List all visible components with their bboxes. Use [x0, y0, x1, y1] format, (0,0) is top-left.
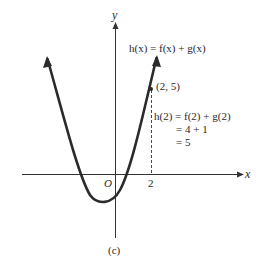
computation-line-2: = 4 + 1: [176, 124, 208, 135]
y-axis-label: y: [112, 9, 117, 21]
point-label: (2, 5): [156, 81, 180, 92]
graph-canvas: [0, 0, 259, 272]
parabola-curve: [48, 58, 157, 202]
figure-caption: (c): [108, 245, 120, 256]
x-axis-label: x: [245, 168, 250, 180]
curve-left-arrowhead: [43, 56, 52, 68]
point-2-5: [149, 87, 153, 91]
curve-right-arrowhead: [152, 55, 161, 67]
function-label: h(x) = f(x) + g(x): [129, 43, 206, 54]
computation-line-3: = 5: [176, 137, 190, 148]
x-tick-label-2: 2: [148, 178, 154, 189]
origin-label: O: [104, 178, 112, 189]
computation-line-1: h(2) = f(2) + g(2): [154, 111, 231, 122]
